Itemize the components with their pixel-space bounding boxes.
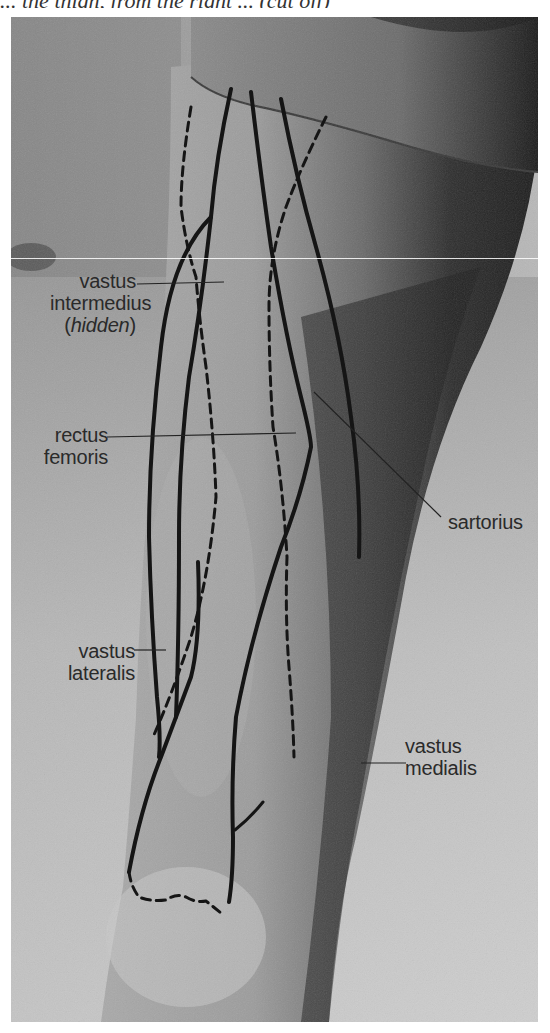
label-vastus-medialis: vastus medialis [405, 735, 477, 779]
label-rectus-femoris: rectus femoris [40, 424, 108, 468]
label-line: femoris [40, 446, 108, 468]
label-line: vastus [50, 270, 136, 292]
scan-artifact-line [11, 258, 538, 259]
label-line: medialis [405, 757, 477, 779]
label-line: lateralis [60, 662, 135, 684]
label-note-italic: hidden [71, 314, 130, 336]
label-vastus-lateralis: vastus lateralis [60, 640, 135, 684]
label-line: sartorius [448, 511, 523, 533]
label-vastus-intermedius: vastus intermedius (hidden) [50, 270, 136, 336]
label-note: (hidden) [50, 314, 136, 336]
caption-fragment: ... the thigh, from the right ... (cut o… [0, 0, 550, 8]
label-line: vastus [405, 735, 477, 757]
label-sartorius: sartorius [448, 511, 523, 533]
label-line: intermedius [50, 292, 136, 314]
label-line: rectus [40, 424, 108, 446]
label-line: vastus [60, 640, 135, 662]
